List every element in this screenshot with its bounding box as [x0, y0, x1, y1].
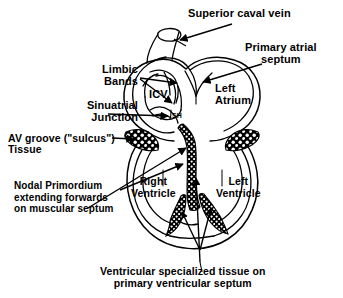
label-av-groove-line2: Tissue: [8, 143, 42, 155]
label-primary-atrial-septum: Primary atrialseptum: [245, 42, 317, 65]
label-ventricular-specialized-line2: primary ventricular septum: [114, 277, 252, 289]
label-ventricular-specialized-tissue: Ventricular specialized tissue onprimary…: [100, 265, 266, 289]
label-limbic-bands-line1: Limbic: [102, 63, 138, 75]
label-limbic-bands-line2: Bands: [104, 75, 138, 87]
label-left-ventricle-line1: Left: [229, 175, 249, 187]
label-sinuatrial-junction-line2: Junction: [91, 111, 138, 123]
label-sh: SH: [172, 112, 182, 119]
label-primary-atrial-septum-line1: Primary atrial: [245, 41, 317, 53]
av-groove-tissue-left: [225, 130, 259, 151]
label-sinuatrial-junction: SinuatrialJunction: [26, 100, 138, 123]
label-left-atrium: LeftAtrium: [215, 83, 251, 106]
label-right-ventricle: RightVentricle: [131, 176, 176, 199]
label-ventricular-specialized-line1: Ventricular specialized tissue on: [100, 265, 266, 277]
label-left-ventricle-line2: Ventricle: [216, 187, 261, 199]
label-sinuatrial-junction-line1: Sinuatrial: [87, 99, 138, 111]
label-right-ventricle-line1: Right: [140, 175, 167, 187]
label-icv: ICV: [149, 89, 168, 101]
label-superior-caval-vein: Superior caval vein: [188, 8, 291, 20]
label-primary-atrial-septum-line2: septum: [261, 53, 301, 65]
anatomical-figure: Superior caval vein Primary atrialseptum…: [0, 0, 343, 298]
label-nodal-primordium-line1: Nodal Primordium: [14, 180, 102, 191]
label-nodal-primordium: Nodal Primordiumextending forwardson mus…: [14, 180, 114, 215]
ventricular-septum-tissue-left: [199, 194, 228, 234]
ventricular-apex-floor: [170, 236, 214, 238]
label-nodal-primordium-line2: extending forwards: [14, 192, 108, 203]
label-left-atrium-line1: Left: [215, 82, 236, 94]
av-groove-tissue-right: [125, 130, 159, 151]
leader-av-groove: [112, 138, 134, 139]
label-left-ventricle: LeftVentricle: [216, 176, 261, 199]
label-av-groove-tissue: AV groove ("sulcus")Tissue: [8, 133, 115, 155]
label-left-atrium-line2: Atrium: [215, 94, 251, 106]
leader-superior-caval-vein: [180, 24, 232, 40]
label-right-ventricle-line2: Ventricle: [131, 187, 176, 199]
label-nodal-primordium-line3: on muscular septum: [14, 203, 114, 214]
label-limbic-bands: LimbicBands: [66, 64, 138, 87]
primary-atrial-septum: [185, 71, 212, 96]
